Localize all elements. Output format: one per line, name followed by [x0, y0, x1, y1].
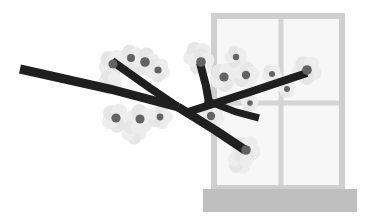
blossom-center-bud-1-center [284, 86, 290, 92]
blossom-left-upper-4-center [154, 66, 161, 73]
blossom-center [111, 113, 120, 122]
window-sill [203, 189, 357, 212]
blossom-left-lower-1-center [111, 113, 120, 122]
window-mullion-horizontal [217, 101, 339, 106]
blossom-center [157, 114, 164, 121]
blossom-right-bud-2-center [247, 100, 253, 106]
blossom-right-tip-1-center [302, 65, 312, 75]
blossom-left-lower-3-center [157, 114, 164, 121]
blossom-center [154, 66, 161, 73]
blossom-center [302, 65, 312, 75]
blossom-center [140, 57, 150, 67]
window [203, 13, 357, 212]
blossom-center [219, 72, 228, 81]
blossom-center-right-4-center [269, 71, 275, 77]
blossom-center-right-2-center [242, 71, 250, 79]
blossom-left-upper-1-center [109, 60, 118, 69]
blossom-mid-bud-1-center [207, 112, 215, 120]
blossom-center [233, 54, 239, 60]
blossom-center [247, 100, 253, 106]
blossom-petal [108, 71, 121, 84]
blossom-center [136, 115, 145, 124]
blossom-center [241, 145, 251, 155]
blossom-center [242, 71, 250, 79]
blossom-left-lower-2-center [136, 115, 145, 124]
blossom-center [207, 112, 215, 120]
illustration-canvas [0, 0, 372, 224]
blossom-petal [239, 154, 252, 167]
blossom-bottom-tip-1-center [241, 145, 251, 155]
blossom-left-upper-2-center [127, 54, 135, 62]
blossom-center-top-2-center [196, 57, 206, 67]
blossom-center-right-1-center [219, 72, 228, 81]
blossom-center [127, 54, 135, 62]
blossom-center [196, 57, 206, 67]
blossom-left-upper-3-center [140, 57, 150, 67]
blossom-center [269, 71, 275, 77]
blossom-center [284, 86, 290, 92]
blossom-center [109, 60, 118, 69]
blossom-center-right-3-center [233, 54, 239, 60]
cherry-blossom-window-illustration [0, 0, 372, 224]
